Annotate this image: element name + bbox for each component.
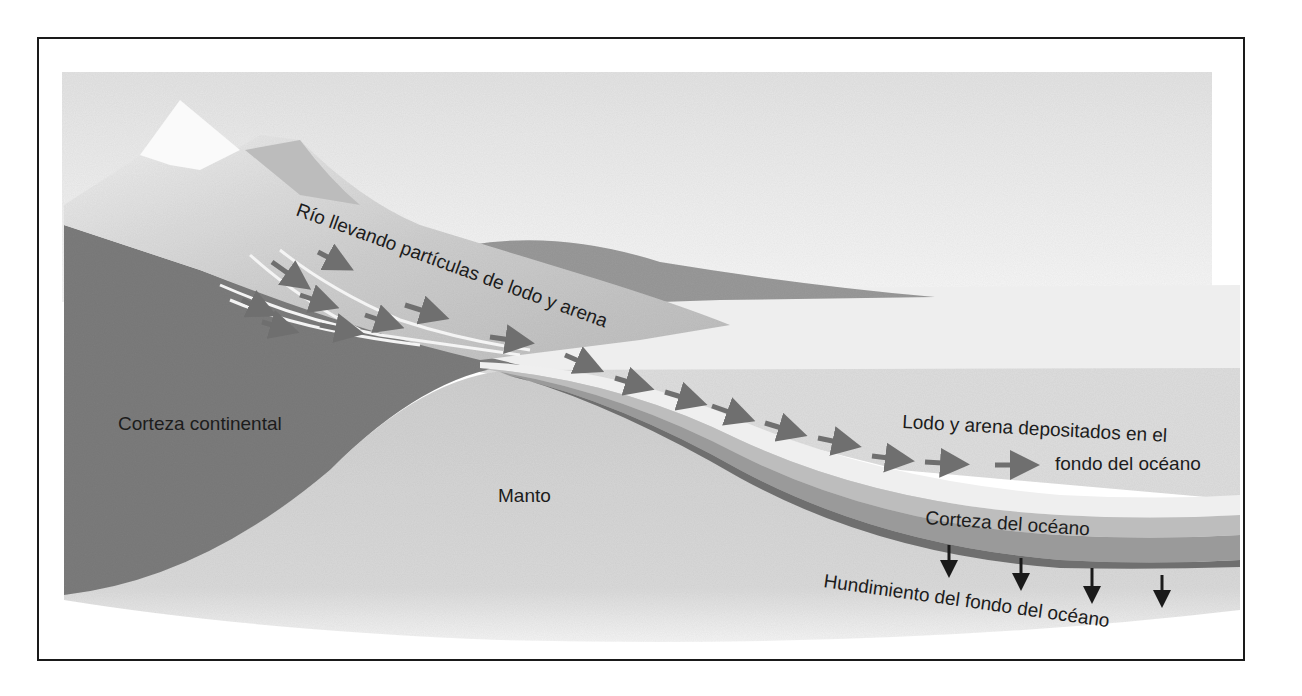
- diagram-canvas: Río llevando partículas de lodo y arena …: [0, 0, 1302, 696]
- arrow-icon: [925, 462, 960, 464]
- label-mantle: Manto: [498, 485, 551, 506]
- label-continental-crust: Corteza continental: [118, 413, 282, 434]
- label-deposits-line2: fondo del océano: [1055, 453, 1201, 474]
